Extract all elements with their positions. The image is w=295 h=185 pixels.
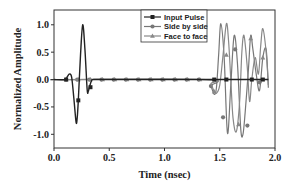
chart: 0.00.51.01.52.0 1.00.50.0-0.5-1.0 Time (…: [0, 0, 295, 185]
legend-label: Input Pulse: [164, 13, 204, 22]
y-tick-label: -1.0: [33, 129, 49, 140]
data-point: [261, 78, 265, 82]
data-point: [233, 47, 237, 51]
data-point: [224, 78, 228, 82]
x-axis: 0.00.51.01.52.0: [48, 148, 282, 163]
data-point: [88, 85, 92, 89]
legend-marker: [151, 15, 155, 19]
y-axis-title: Normalized Amplitude: [12, 27, 23, 130]
y-tick-label: 0.0: [37, 74, 50, 85]
legend-label: Side by side: [164, 22, 208, 31]
x-tick-label: 2.0: [269, 152, 282, 163]
x-tick-label: 0.5: [103, 152, 116, 163]
x-axis-title: Time (nsec): [138, 169, 191, 181]
y-tick-label: -0.5: [33, 101, 49, 112]
data-point: [221, 115, 225, 119]
x-tick-label: 1.5: [214, 152, 227, 163]
x-tick-label: 1.0: [158, 152, 171, 163]
legend-marker: [150, 24, 154, 28]
legend: Input PulseSide by sideFace to face: [141, 10, 208, 42]
y-tick-label: 1.0: [37, 19, 50, 30]
x-tick-label: 0.0: [48, 152, 61, 163]
data-point: [245, 123, 249, 127]
data-point: [212, 78, 216, 82]
legend-label: Face to face: [164, 32, 207, 41]
data-point: [64, 78, 68, 82]
data-point: [250, 78, 254, 82]
data-point: [76, 98, 80, 102]
y-tick-label: 0.5: [37, 47, 50, 58]
